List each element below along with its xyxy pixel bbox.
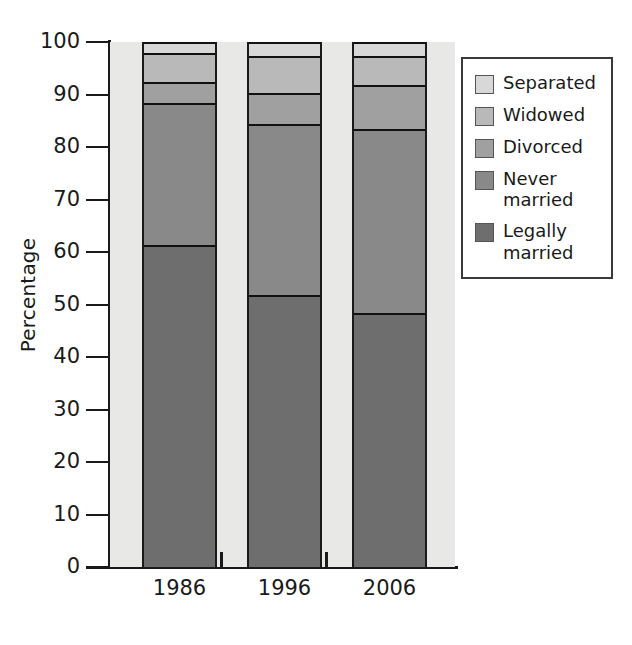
y-tick-label-90: 90 xyxy=(22,84,80,105)
x-tick-separator-0 xyxy=(220,552,223,568)
bar-2006[interactable] xyxy=(352,42,427,567)
bar-1996[interactable] xyxy=(247,42,322,567)
x-tick-separator-1 xyxy=(325,552,328,568)
legend-item-divorced[interactable]: Divorced xyxy=(475,136,601,158)
legend-item-legally-married[interactable]: Legally married xyxy=(475,220,601,262)
legend-label: Separated xyxy=(503,72,596,93)
legend-swatch-icon xyxy=(475,171,494,190)
legend-swatch-icon xyxy=(475,75,494,94)
bar-segment-1986-separated[interactable] xyxy=(144,42,215,55)
bar-segment-2006-widowed[interactable] xyxy=(354,58,425,87)
bar-segment-1986-never-married[interactable] xyxy=(144,105,215,247)
legend-label: Divorced xyxy=(503,136,583,157)
bar-segment-2006-separated[interactable] xyxy=(354,42,425,58)
bar-segment-2006-divorced[interactable] xyxy=(354,87,425,132)
legend: SeparatedWidowedDivorcedNever marriedLeg… xyxy=(461,57,613,279)
y-tick-label-50: 50 xyxy=(22,294,80,315)
bar-1986[interactable] xyxy=(142,42,217,567)
bar-segment-1996-divorced[interactable] xyxy=(249,95,320,127)
x-axis-label-2006: 2006 xyxy=(330,576,450,600)
y-tick-40 xyxy=(86,356,108,358)
bar-segment-2006-legally-married[interactable] xyxy=(354,315,425,567)
y-tick-50 xyxy=(86,304,108,306)
legend-item-separated[interactable]: Separated xyxy=(475,72,601,94)
y-tick-label-20: 20 xyxy=(22,451,80,472)
y-tick-10 xyxy=(86,514,108,516)
bar-segment-1996-never-married[interactable] xyxy=(249,126,320,297)
legend-label: Legally married xyxy=(503,220,574,262)
legend-label: Widowed xyxy=(503,104,585,125)
y-tick-80 xyxy=(86,146,108,148)
y-tick-label-70: 70 xyxy=(22,189,80,210)
y-tick-30 xyxy=(86,409,108,411)
y-tick-label-0: 0 xyxy=(22,556,80,577)
legend-swatch-icon xyxy=(475,139,494,158)
y-tick-70 xyxy=(86,199,108,201)
x-axis-label-1986: 1986 xyxy=(120,576,240,600)
bar-segment-1986-divorced[interactable] xyxy=(144,84,215,105)
bar-segment-1986-legally-married[interactable] xyxy=(144,247,215,567)
y-tick-label-100: 100 xyxy=(22,31,80,52)
legend-item-widowed[interactable]: Widowed xyxy=(475,104,601,126)
y-tick-label-10: 10 xyxy=(22,504,80,525)
legend-label: Never married xyxy=(503,168,574,210)
y-tick-100 xyxy=(86,41,108,43)
y-tick-label-60: 60 xyxy=(22,241,80,262)
x-axis-label-1996: 1996 xyxy=(225,576,345,600)
y-tick-label-30: 30 xyxy=(22,399,80,420)
y-tick-label-40: 40 xyxy=(22,346,80,367)
bar-segment-1996-separated[interactable] xyxy=(249,42,320,58)
bar-segment-1986-widowed[interactable] xyxy=(144,55,215,84)
bar-segment-1996-widowed[interactable] xyxy=(249,58,320,95)
y-tick-0 xyxy=(86,566,108,568)
legend-swatch-icon xyxy=(475,223,494,242)
stacked-bar-chart-figure: Percentage 0102030405060708090100 198619… xyxy=(0,0,632,645)
y-tick-20 xyxy=(86,461,108,463)
y-tick-60 xyxy=(86,251,108,253)
plot-area xyxy=(110,42,455,567)
legend-item-never-married[interactable]: Never married xyxy=(475,168,601,210)
y-tick-90 xyxy=(86,94,108,96)
y-tick-label-80: 80 xyxy=(22,136,80,157)
bar-segment-1996-legally-married[interactable] xyxy=(249,297,320,567)
bar-segment-2006-never-married[interactable] xyxy=(354,131,425,315)
legend-swatch-icon xyxy=(475,107,494,126)
